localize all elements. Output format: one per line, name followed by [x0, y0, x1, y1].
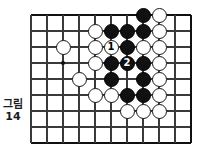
go-stone-black[interactable] — [120, 88, 135, 103]
go-stone-white[interactable] — [88, 40, 103, 55]
go-stone-white[interactable] — [88, 88, 103, 103]
go-stone-white[interactable] — [136, 40, 151, 55]
go-stone-white-move-1[interactable]: 1 — [104, 40, 119, 55]
go-stone-black[interactable] — [136, 56, 151, 71]
go-stone-white[interactable] — [152, 8, 167, 23]
go-stone-white[interactable] — [88, 24, 103, 39]
go-stone-white[interactable] — [152, 40, 167, 55]
go-stone-white[interactable] — [152, 56, 167, 71]
go-stone-white[interactable] — [56, 40, 71, 55]
go-stone-black[interactable] — [120, 40, 135, 55]
go-stone-black[interactable] — [104, 24, 119, 39]
go-stone-white[interactable] — [136, 104, 151, 119]
go-stones-layer: 12 — [0, 0, 211, 162]
go-stone-white[interactable] — [152, 24, 167, 39]
go-stone-black-move-2[interactable]: 2 — [120, 56, 135, 71]
go-diagram-figure: 그림 14 12 — [0, 0, 211, 162]
stone-move-number: 1 — [108, 42, 115, 52]
go-stone-white[interactable] — [88, 56, 103, 71]
go-stone-black[interactable] — [136, 72, 151, 87]
go-stone-black[interactable] — [136, 24, 151, 39]
go-stone-white[interactable] — [152, 104, 167, 119]
go-stone-black[interactable] — [104, 72, 119, 87]
go-stone-black[interactable] — [104, 56, 119, 71]
go-stone-white[interactable] — [120, 104, 135, 119]
go-board[interactable]: 12 — [0, 0, 211, 162]
go-stone-white[interactable] — [104, 88, 119, 103]
go-stone-black[interactable] — [136, 8, 151, 23]
stone-move-number: 2 — [124, 58, 131, 68]
go-stone-white[interactable] — [72, 72, 87, 87]
go-stone-white[interactable] — [152, 88, 167, 103]
go-stone-black[interactable] — [120, 24, 135, 39]
go-stone-white[interactable] — [152, 72, 167, 87]
go-stone-black[interactable] — [136, 88, 151, 103]
